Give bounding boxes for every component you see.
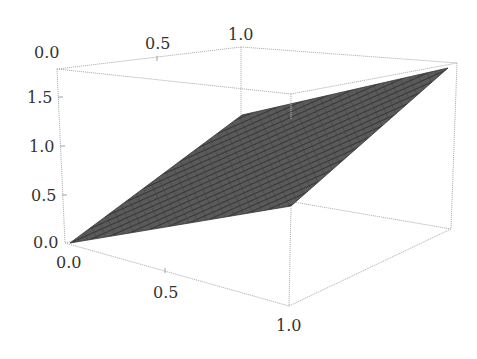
box-edge-left-vertical [57, 69, 65, 243]
top-axis-label-0: 0.0 [34, 43, 59, 62]
z-axis-label-0-5: 0.5 [31, 186, 56, 205]
plane-surface [70, 68, 448, 243]
box-edge-top-back-right [241, 47, 457, 63]
z-axis-label-1-0: 1.0 [29, 137, 54, 156]
box-edge-top-front-left [57, 69, 291, 94]
bottom-axis-label-2: 1.0 [276, 316, 301, 335]
box-edge-bottom-front-right [289, 229, 451, 306]
box-edge-right-vertical [451, 63, 457, 229]
top-axis-label-1: 0.5 [145, 34, 170, 53]
top-axis-label-2: 1.0 [228, 25, 253, 44]
bottom-axis-label-0: 0.0 [56, 253, 81, 272]
box-edge-front-vertical-lower [289, 206, 291, 306]
z-axis-label-1-5: 1.5 [27, 88, 52, 107]
surface-plot: 0.0 0.5 1.0 1.5 1.0 0.5 0.0 0.0 0.5 1.0 [0, 0, 477, 359]
bottom-axis-label-1: 0.5 [153, 283, 178, 302]
z-axis-label-0-0: 0.0 [33, 233, 58, 252]
